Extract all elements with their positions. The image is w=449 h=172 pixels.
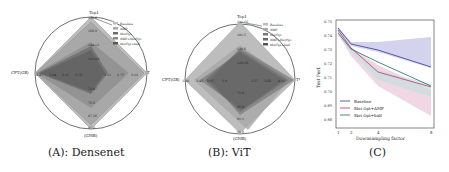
vit-radar-svg: Top1 T% (GMB) CPT(GB) 201.56 180.5 139.6… <box>150 0 300 150</box>
svg-text:8bitOpt+half: 8bitOpt+half <box>270 43 291 47</box>
line-chart-svg: 0.75 0.74 0.73 0.72 0.71 0.70 0.69 0.68 … <box>300 0 449 150</box>
svg-text:90.0: 90.0 <box>237 117 244 121</box>
svg-text:3.88: 3.88 <box>182 79 189 83</box>
svg-text:97.8: 97.8 <box>88 126 95 130</box>
svg-text:2.76: 2.76 <box>75 73 82 77</box>
svg-text:139.6: 139.6 <box>237 47 246 51</box>
svg-text:3.02: 3.02 <box>131 73 138 77</box>
svg-text:3.31: 3.31 <box>62 73 69 77</box>
axis-label-bottom: (GMB) <box>84 133 98 138</box>
svg-text:0.69: 0.69 <box>324 104 333 108</box>
line-chart-downsampling: 0.75 0.74 0.73 0.72 0.71 0.70 0.69 0.68 … <box>300 0 449 150</box>
axis-label-left: CPT(GB) <box>162 77 180 82</box>
svg-text:168.9: 168.9 <box>88 29 97 33</box>
svg-text:0.71: 0.71 <box>324 76 332 80</box>
x-axis-label: Downsampling factor <box>356 136 406 141</box>
svg-text:AMP+8bitOpt: AMP+8bitOpt <box>119 37 142 41</box>
svg-text:0.75: 0.75 <box>324 20 333 24</box>
svg-text:0.73: 0.73 <box>324 48 333 52</box>
svg-text:AMP: AMP <box>269 28 277 32</box>
caption-c: (C) <box>369 146 386 159</box>
svg-text:Baseline: Baseline <box>270 23 283 27</box>
y-axis-label: Test Perf. <box>316 66 321 88</box>
svg-text:2.11: 2.11 <box>104 73 111 77</box>
svg-text:8bitOpt: 8bitOpt <box>120 32 132 36</box>
caption-vit: (B): ViT <box>208 146 250 159</box>
svg-text:2.57: 2.57 <box>251 79 258 83</box>
axis-label-top: Top1 <box>237 14 247 19</box>
axis-label-left: CPT(GB) <box>11 70 29 75</box>
svg-text:91.8: 91.8 <box>237 130 244 134</box>
svg-text:0.74: 0.74 <box>324 34 333 38</box>
caption-densenet: (A): Densenet <box>48 146 124 159</box>
svg-text:8bitOpt+half: 8bitOpt+half <box>120 42 141 46</box>
svg-text:119.06: 119.06 <box>237 61 248 65</box>
svg-text:180.5: 180.5 <box>237 33 246 37</box>
svg-text:AMP+8bitOpt: AMP+8bitOpt <box>269 38 292 42</box>
svg-text:0.70: 0.70 <box>324 90 333 94</box>
svg-text:70.47: 70.47 <box>88 87 97 91</box>
svg-text:2.97: 2.97 <box>207 79 214 83</box>
radar-chart-densenet: Top1 T% (GMB) CPT(GB) 191.6 168.9 144.12… <box>0 0 150 150</box>
svg-text:3.68: 3.68 <box>264 79 271 83</box>
svg-text:1.9: 1.9 <box>222 79 227 83</box>
x-axis: 1 2 4 8 <box>337 130 433 135</box>
svg-text:191.6: 191.6 <box>88 16 97 20</box>
svg-text:AMP: AMP <box>119 27 127 31</box>
svg-text:70.8: 70.8 <box>237 91 244 95</box>
svg-text:2: 2 <box>350 130 353 135</box>
svg-text:3.94: 3.94 <box>49 73 56 77</box>
radar-chart-vit: Top1 T% (GMB) CPT(GB) 201.56 180.5 139.6… <box>150 0 300 150</box>
svg-text:8: 8 <box>430 130 433 135</box>
axis-label-bottom: (GMB) <box>233 136 247 141</box>
svg-text:1: 1 <box>337 130 340 135</box>
svg-text:8bit Opt+half: 8bit Opt+half <box>354 113 382 118</box>
svg-text:2.75: 2.75 <box>117 73 124 77</box>
axis-label-top: Top1 <box>89 10 99 15</box>
svg-text:76.6: 76.6 <box>88 101 95 105</box>
svg-text:8bitOpt: 8bitOpt <box>270 33 282 37</box>
svg-text:Baseline: Baseline <box>354 99 372 104</box>
svg-text:Baseline: Baseline <box>120 22 133 26</box>
svg-text:85.8: 85.8 <box>237 105 244 109</box>
svg-text:4: 4 <box>377 130 380 135</box>
svg-text:3.43: 3.43 <box>196 79 203 83</box>
svg-text:4.47: 4.47 <box>36 73 43 77</box>
svg-text:8bit Opt+AMP: 8bit Opt+AMP <box>354 106 384 111</box>
densenet-radar-svg: Top1 T% (GMB) CPT(GB) 191.6 168.9 144.12… <box>0 0 150 150</box>
svg-text:100.89: 100.89 <box>88 57 99 61</box>
svg-text:144.12: 144.12 <box>88 43 99 47</box>
svg-text:87.26: 87.26 <box>88 114 97 118</box>
svg-text:4.02: 4.02 <box>278 79 285 83</box>
y-axis: 0.75 0.74 0.73 0.72 0.71 0.70 0.69 0.68 <box>324 20 333 122</box>
svg-text:0.72: 0.72 <box>324 62 332 66</box>
svg-text:0.68: 0.68 <box>324 118 333 122</box>
